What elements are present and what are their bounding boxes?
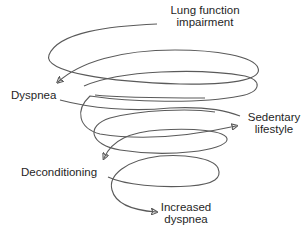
label-line: Lung function xyxy=(163,4,247,16)
label-line: Deconditioning xyxy=(21,166,97,178)
label-line: lifestyle xyxy=(244,123,304,135)
label-line: impairment xyxy=(163,16,247,28)
spiral-segment-loop2 xyxy=(81,71,257,137)
spiral-segment-sedentary-to-deconditioning xyxy=(94,110,227,158)
label-increased-dyspnea: Increased dyspnea xyxy=(157,201,215,225)
label-line: Increased xyxy=(157,201,215,213)
spiral-segment-dyspnea-to-sedentary xyxy=(60,100,240,116)
label-line: Sedentary xyxy=(244,111,304,123)
label-lung-function-impairment: Lung function impairment xyxy=(163,4,247,28)
spiral-segment-lung-to-dyspnea xyxy=(49,24,259,84)
label-sedentary-lifestyle: Sedentary lifestyle xyxy=(244,111,304,135)
label-dyspnea: Dyspnea xyxy=(11,89,56,101)
label-line: Dyspnea xyxy=(11,89,56,101)
label-line: dyspnea xyxy=(157,213,215,225)
label-deconditioning: Deconditioning xyxy=(21,166,97,178)
